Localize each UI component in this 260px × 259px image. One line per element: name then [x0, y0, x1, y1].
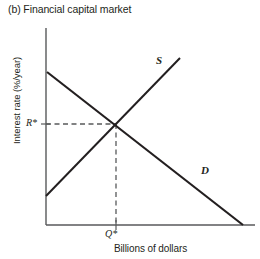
financial-capital-market-figure: (b) Financial capital market Interest ra…: [0, 0, 260, 259]
equilibrium-interest-rate-label: R*: [26, 117, 37, 128]
equilibrium-quantity-label: Q*: [105, 228, 117, 239]
demand-curve-label: D: [201, 164, 209, 176]
supply-curve: [46, 58, 180, 196]
plot-area: [0, 0, 260, 259]
supply-curve-label: S: [156, 54, 162, 66]
